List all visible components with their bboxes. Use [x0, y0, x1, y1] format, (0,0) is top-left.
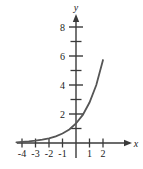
y-axis-label: y — [73, 2, 79, 13]
x-axis-label: x — [133, 138, 139, 149]
x-tick-label-2: 2 — [101, 148, 106, 159]
x-axis-arrowhead — [124, 140, 132, 146]
y-axis-arrowhead — [73, 14, 79, 22]
y-tick-label-8: 8 — [60, 22, 65, 33]
x-tick-label--3: -3 — [31, 148, 39, 159]
x-tick-label--1: -1 — [58, 148, 66, 159]
y-tick-label-2: 2 — [60, 109, 65, 120]
exponential-curve — [16, 60, 103, 142]
coordinate-plane-svg: -4 -3 -2 -1 1 2 2 4 6 8 y x — [0, 0, 143, 169]
x-tick-label--2: -2 — [45, 148, 53, 159]
x-tick-label-1: 1 — [87, 148, 92, 159]
y-tick-label-4: 4 — [60, 80, 65, 91]
y-tick-label-6: 6 — [60, 51, 65, 62]
x-tick-label--4: -4 — [18, 148, 26, 159]
exponential-graph-figure: -4 -3 -2 -1 1 2 2 4 6 8 y x — [0, 0, 143, 169]
y-axis — [73, 14, 79, 158]
